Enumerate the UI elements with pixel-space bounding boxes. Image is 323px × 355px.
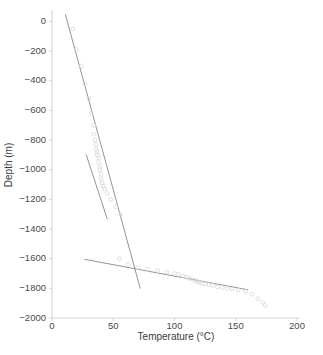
data-point [114, 205, 118, 209]
data-point [155, 269, 159, 273]
data-point [97, 160, 101, 164]
y-tick-label: −200 [25, 45, 46, 56]
y-axis-title: Depth (m) [3, 143, 14, 187]
data-point [263, 303, 267, 307]
x-tick-label: 0 [49, 320, 54, 331]
x-axis-title: Temperature (°C) [138, 331, 215, 342]
data-point [211, 283, 215, 287]
data-point [71, 27, 75, 31]
data-point [99, 177, 103, 181]
x-tick-label: 150 [228, 320, 244, 331]
y-tick-label: −400 [25, 74, 46, 85]
data-point [256, 297, 260, 301]
y-tick-label: −1600 [19, 252, 46, 263]
data-point [165, 270, 169, 274]
data-point [92, 123, 96, 127]
y-tick-label: −800 [25, 134, 46, 145]
data-points-group [71, 27, 267, 307]
x-tick-label: 50 [108, 320, 119, 331]
data-point [173, 272, 177, 276]
y-tick-label: 0 [41, 15, 46, 26]
chart-figure: 050100150200 0−200−400−600−800−1000−1200… [0, 0, 323, 355]
data-point [215, 285, 219, 289]
data-point [146, 267, 150, 271]
y-tick-label: −1400 [19, 223, 46, 234]
data-point [92, 132, 96, 136]
data-point [225, 286, 229, 290]
data-point [181, 274, 185, 278]
data-point [99, 172, 103, 176]
y-tick-label: −1000 [19, 163, 46, 174]
data-point [207, 283, 211, 287]
data-point [250, 292, 254, 296]
data-point [83, 82, 87, 86]
temperature-depth-scatter-plot: 050100150200 0−200−400−600−800−1000−1200… [0, 0, 323, 355]
data-point [230, 287, 234, 291]
y-tick-label: −1800 [19, 282, 46, 293]
x-tick-label: 200 [289, 320, 305, 331]
y-axis-ticks [49, 21, 52, 318]
data-point [203, 282, 207, 286]
y-axis-tick-labels: 0−200−400−600−800−1000−1200−1400−1600−18… [19, 15, 46, 323]
data-point [94, 143, 98, 147]
data-point [93, 138, 97, 142]
data-point [80, 64, 84, 68]
data-point [126, 263, 130, 267]
y-tick-label: −2000 [19, 312, 46, 323]
data-point [200, 281, 204, 285]
lower-gradient-line [85, 259, 248, 289]
data-point [220, 286, 224, 290]
trend-lines-group [65, 15, 248, 290]
x-axis-tick-labels: 050100150200 [49, 320, 305, 331]
data-point [236, 288, 240, 292]
x-tick-label: 100 [167, 320, 183, 331]
data-point [109, 197, 113, 201]
data-point [176, 272, 180, 276]
upper-gradient-line [65, 15, 140, 289]
data-point [105, 192, 109, 196]
y-tick-label: −600 [25, 104, 46, 115]
data-point [117, 257, 121, 261]
y-tick-label: −1200 [19, 193, 46, 204]
data-point [244, 289, 248, 293]
